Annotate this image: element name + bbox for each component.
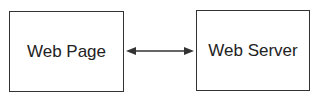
arrowhead-left-icon <box>126 47 136 55</box>
web-server-label: Web Server <box>208 41 297 61</box>
arrowhead-right-icon <box>184 47 194 55</box>
web-server-node: Web Server <box>196 10 310 91</box>
